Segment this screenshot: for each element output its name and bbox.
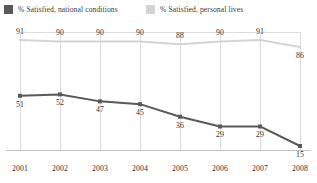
series-marker-national-conditions-2008 [298,144,302,148]
value-label-national-conditions-2005: 36 [176,121,184,130]
x-tick-2005: 2005 [172,164,188,173]
series-marker-national-conditions-2007 [258,124,262,128]
series-marker-national-conditions-2005 [178,115,182,119]
series-marker-national-conditions-2002 [58,92,62,96]
value-label-personal-lives-2001: 91 [16,27,24,36]
value-label-national-conditions-2001: 51 [16,100,24,109]
legend-swatch-personal-lives [146,5,155,14]
chart-legend: % Satisfied, national conditions % Satis… [0,4,317,20]
value-label-personal-lives-2004: 90 [136,28,144,37]
x-tick-2006: 2006 [212,164,228,173]
x-tick-2003: 2003 [92,164,108,173]
value-label-personal-lives-2008: 86 [296,51,304,60]
series-marker-national-conditions-2004 [138,102,142,106]
x-tick-2004: 2004 [132,164,148,173]
legend-swatch-national-conditions [4,5,13,14]
series-line-personal-lives [20,40,300,47]
satisfaction-line-chart: % Satisfied, national conditions % Satis… [0,0,317,183]
value-label-personal-lives-2007: 91 [256,27,264,36]
plot-area: 51524745362929159190909088909186 [0,22,317,155]
value-label-national-conditions-2003: 47 [96,105,104,114]
series-marker-national-conditions-2006 [218,124,222,128]
value-label-national-conditions-2006: 29 [216,130,224,139]
axis-lines [6,33,311,151]
legend-item-personal-lives: % Satisfied, personal lives [146,5,243,14]
value-label-national-conditions-2007: 29 [256,130,264,139]
legend-item-national-conditions: % Satisfied, national conditions [4,5,118,14]
value-label-personal-lives-2006: 90 [216,28,224,37]
x-tick-2002: 2002 [52,164,68,173]
value-label-personal-lives-2003: 90 [96,28,104,37]
x-tick-2008: 2008 [292,164,308,173]
value-label-national-conditions-2008: 15 [296,150,304,159]
value-label-personal-lives-2002: 90 [56,28,64,37]
plot-svg [0,22,317,155]
x-tick-2001: 2001 [12,164,28,173]
value-label-national-conditions-2002: 52 [56,98,64,107]
legend-label-national-conditions: % Satisfied, national conditions [18,5,118,14]
series-marker-national-conditions-2003 [98,99,102,103]
x-axis: 20012002200320042005200620072008 [0,164,317,180]
value-label-national-conditions-2004: 45 [136,108,144,117]
legend-label-personal-lives: % Satisfied, personal lives [160,5,243,14]
x-tick-2007: 2007 [252,164,268,173]
series-marker-national-conditions-2001 [18,94,22,98]
value-label-personal-lives-2005: 88 [176,31,184,40]
